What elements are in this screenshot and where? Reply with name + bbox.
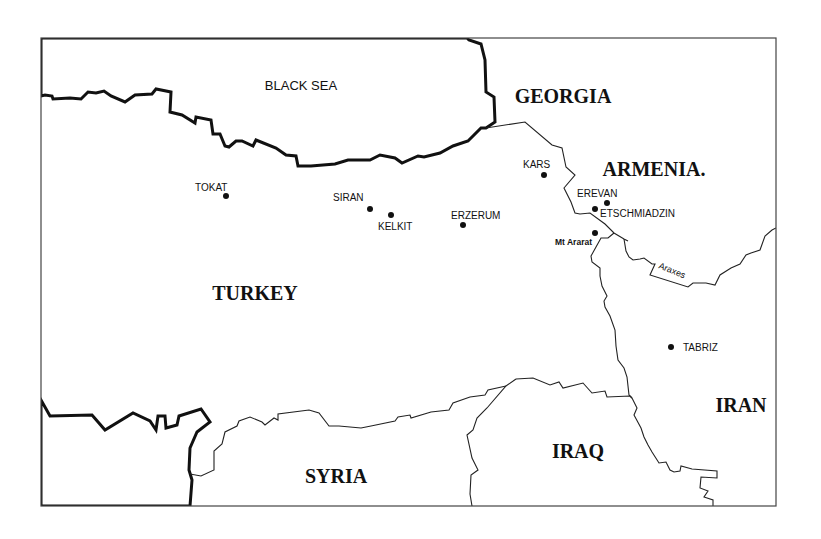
city-dot-icon bbox=[223, 193, 229, 199]
city-erzerum: ERZERUM bbox=[451, 210, 500, 228]
svg-text:SIRAN: SIRAN bbox=[333, 192, 364, 203]
sea-label-black-sea: BLACK SEA bbox=[256, 76, 346, 94]
border-turkey-iraq bbox=[516, 378, 632, 398]
city-dot-icon bbox=[592, 206, 598, 212]
city-kelkit: KELKIT bbox=[378, 212, 412, 232]
country-label-iraq: IRAQ bbox=[552, 440, 604, 462]
map-canvas: BLACK SEA GEORGIA ARMENIA. TURKEY SYRIA … bbox=[0, 0, 821, 539]
mountain-dot-icon bbox=[592, 230, 598, 236]
border-turkey-iran bbox=[591, 233, 632, 398]
svg-text:ERZERUM: ERZERUM bbox=[451, 210, 500, 221]
city-dot-icon bbox=[541, 172, 547, 178]
city-erevan: EREVAN bbox=[577, 188, 617, 206]
border-syria-iraq bbox=[467, 379, 516, 506]
svg-text:Mt Ararat: Mt Ararat bbox=[555, 237, 592, 247]
city-mt-ararat: Mt Ararat bbox=[555, 230, 598, 247]
svg-text:ETSCHMIADZIN: ETSCHMIADZIN bbox=[600, 208, 675, 219]
country-label-syria: SYRIA bbox=[305, 465, 368, 487]
city-tabriz: TABRIZ bbox=[668, 342, 718, 353]
city-dot-icon bbox=[668, 344, 674, 350]
river-label-araxes: Araxes bbox=[657, 261, 687, 281]
country-label-iran: IRAN bbox=[715, 394, 767, 416]
svg-text:EREVAN: EREVAN bbox=[577, 188, 617, 199]
city-etschmiadzin: ETSCHMIADZIN bbox=[592, 206, 675, 219]
country-label-turkey: TURKEY bbox=[212, 282, 298, 304]
city-dot-icon bbox=[460, 222, 466, 228]
svg-text:BLACK SEA: BLACK SEA bbox=[265, 78, 338, 93]
city-tokat: TOKAT bbox=[195, 182, 229, 199]
city-kars: KARS bbox=[523, 159, 551, 178]
city-dot-icon bbox=[367, 206, 373, 212]
mediterranean-sea-area bbox=[41, 400, 210, 506]
border-turkey-syria bbox=[190, 386, 506, 476]
svg-text:TOKAT: TOKAT bbox=[195, 182, 227, 193]
svg-text:KARS: KARS bbox=[523, 159, 551, 170]
border-turkey-georgia-armenia bbox=[486, 122, 628, 241]
border-armenia-iran bbox=[624, 228, 776, 287]
border-iraq-iran bbox=[632, 398, 717, 506]
city-dot-icon bbox=[388, 212, 394, 218]
country-label-armenia: ARMENIA. bbox=[603, 158, 706, 180]
city-dot-icon bbox=[604, 200, 610, 206]
svg-text:KELKIT: KELKIT bbox=[378, 221, 412, 232]
country-label-georgia: GEORGIA bbox=[515, 85, 612, 107]
black-sea-area bbox=[41, 38, 495, 166]
svg-text:TABRIZ: TABRIZ bbox=[683, 342, 718, 353]
city-siran: SIRAN bbox=[333, 192, 373, 212]
